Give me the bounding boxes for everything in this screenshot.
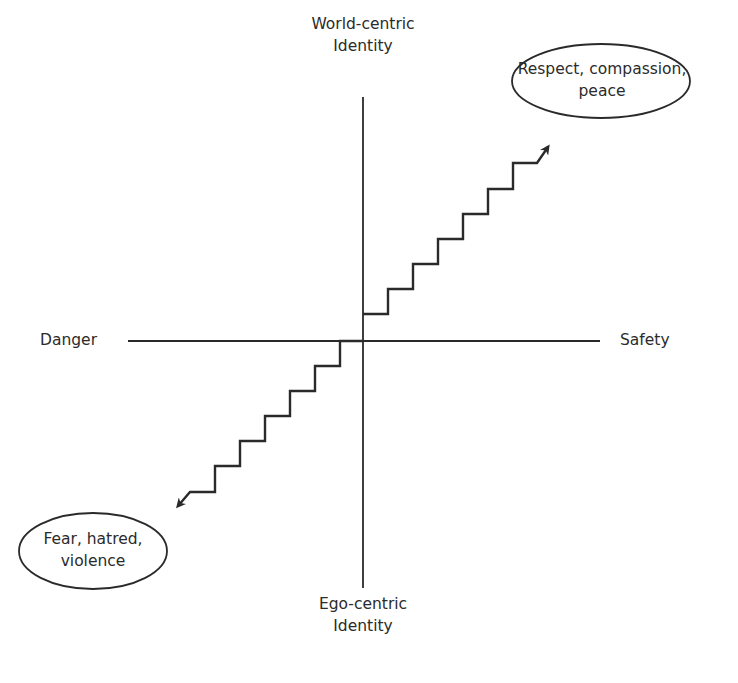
world-centric-identity-label: World-centric Identity: [283, 13, 443, 57]
ego-centric-label-line2: Identity: [283, 615, 443, 637]
upward-staircase-arrow: [363, 147, 548, 314]
world-centric-label-line2: Identity: [283, 35, 443, 57]
safety-label-text: Safety: [620, 329, 710, 351]
ego-centric-label-line1: Ego-centric: [283, 593, 443, 615]
negative-outcome-line2: violence: [18, 550, 168, 572]
negative-outcome-label: Fear, hatred, violence: [18, 528, 168, 572]
world-centric-label-line1: World-centric: [283, 13, 443, 35]
negative-outcome-line1: Fear, hatred,: [18, 528, 168, 550]
ego-centric-identity-label: Ego-centric Identity: [283, 593, 443, 637]
downward-staircase-arrow: [178, 341, 363, 506]
positive-outcome-line2: peace: [512, 80, 692, 102]
positive-outcome-label: Respect, compassion, peace: [512, 58, 692, 102]
danger-label: Danger: [40, 329, 130, 351]
positive-outcome-line1: Respect, compassion,: [512, 58, 692, 80]
safety-label: Safety: [620, 329, 710, 351]
danger-label-text: Danger: [40, 329, 130, 351]
